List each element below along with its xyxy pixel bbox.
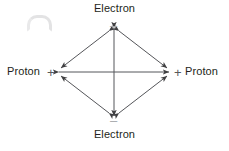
node-label-right-proton: Proton bbox=[185, 65, 218, 78]
node-label-bottom-electron: Electron bbox=[0, 128, 229, 141]
edge-bottom-left bbox=[61, 76, 109, 113]
figure-canvas: Electron – Proton + Electron – Proton + bbox=[0, 0, 229, 151]
node-label-left-proton: Proton bbox=[7, 65, 40, 78]
node-label-top-electron: Electron bbox=[0, 2, 229, 15]
edge-top-left bbox=[61, 31, 109, 68]
edge-top-right bbox=[119, 31, 167, 68]
gray-smudge-artifact-icon bbox=[27, 15, 52, 32]
charge-sign-left-plus: + bbox=[47, 66, 55, 79]
edge-bottom-right bbox=[119, 76, 167, 113]
charge-sign-right-plus: + bbox=[174, 66, 182, 79]
charge-sign-top-minus: – bbox=[110, 19, 117, 32]
charge-sign-bottom-minus: – bbox=[110, 114, 117, 127]
